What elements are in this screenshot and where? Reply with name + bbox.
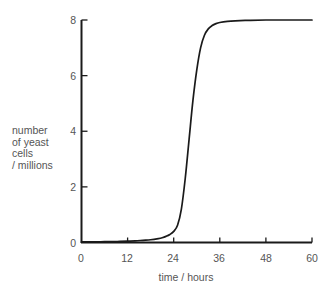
plot-area — [0, 0, 334, 298]
chart-figure: number of yeast cells / millions 8 6 4 2… — [0, 0, 334, 298]
axis-lines — [81, 20, 312, 243]
clipped-footer-text — [10, 288, 260, 297]
data-series-yeast-population — [82, 20, 313, 242]
